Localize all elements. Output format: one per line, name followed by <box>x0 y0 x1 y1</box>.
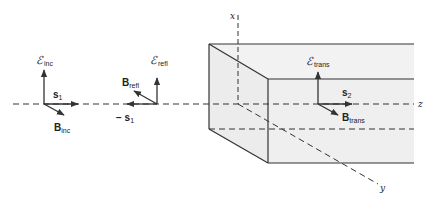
e-refl-label: ℰrefl <box>150 54 168 67</box>
b-inc-label: Binc <box>54 122 71 134</box>
y-axis-label: y <box>379 183 386 193</box>
b-refl-label: Brefl <box>122 77 139 89</box>
e-inc-label: ℰinc <box>36 54 53 67</box>
minus-s1-label: − s1 <box>116 112 134 124</box>
b-inc-arrow-icon <box>44 104 64 115</box>
diagram-canvas: x z y ℰinc s1 Binc ℰrefl Brefl − s1 ℰtra… <box>0 0 433 201</box>
s1-label: s1 <box>53 89 63 101</box>
b-refl-arrow-icon <box>134 91 157 104</box>
z-axis-label: z <box>417 99 423 109</box>
reflected-wave-vectors: ℰrefl Brefl − s1 <box>116 54 168 124</box>
x-axis-label: x <box>230 11 235 21</box>
incident-wave-vectors: ℰinc s1 Binc <box>36 54 78 134</box>
